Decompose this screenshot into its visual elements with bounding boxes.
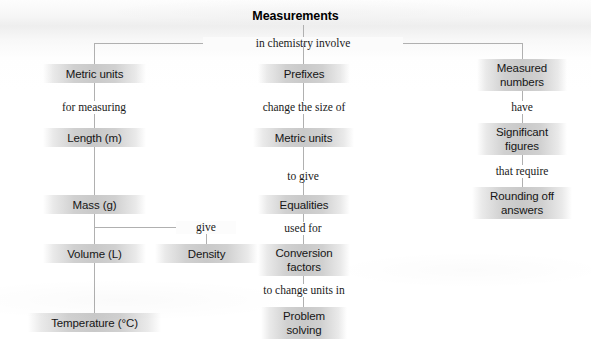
- connector-equalities-to-used-for: [303, 214, 304, 222]
- node-measured-numbers: Measured numbers: [477, 59, 567, 91]
- connector-metric-units-to-to-give: [303, 147, 304, 170]
- node-conversion-factors: Conversion factors: [258, 244, 350, 276]
- node-problem-solving: Problem solving: [261, 307, 347, 339]
- node-conversion-factors-line1: Conversion: [275, 246, 332, 260]
- node-metric-units-center: Metric units: [253, 128, 354, 147]
- connector-prefixes-to-change-size: [303, 83, 304, 101]
- connector-used-for-to-conversion-factors: [303, 235, 304, 244]
- connector-label-to-change-units-in: to change units in: [240, 284, 368, 297]
- node-rounding-off-answers-line2: answers: [501, 203, 543, 217]
- connector-label-to-give: to give: [263, 170, 343, 183]
- node-mass: Mass (g): [43, 195, 146, 214]
- connector-length-to-mass: [94, 147, 95, 195]
- node-rounding-off-answers: Rounding off answers: [472, 187, 572, 219]
- connector-metric-units-to-for-measuring: [94, 83, 95, 101]
- node-measured-numbers-line2: numbers: [500, 75, 544, 89]
- connector-significant-figures-to-that-require: [522, 155, 523, 165]
- node-rounding-off-answers-line1: Rounding off: [490, 189, 554, 203]
- connector-to-give-to-equalities: [303, 183, 304, 195]
- connector-volume-to-temperature: [94, 263, 95, 313]
- node-measured-numbers-line1: Measured: [497, 61, 547, 75]
- diagram-title: Measurements: [0, 9, 591, 23]
- connector-give-to-density: [206, 234, 207, 244]
- connector-label-for-measuring: for measuring: [34, 101, 154, 114]
- connector-label-have: have: [492, 101, 552, 114]
- connector-change-size-to-metric-units: [303, 114, 304, 128]
- connector-change-units-to-problem-solving: [303, 297, 304, 307]
- connector-label-used-for: used for: [268, 222, 338, 235]
- connector-measured-numbers-to-have: [522, 91, 523, 101]
- node-volume: Volume (L): [43, 244, 146, 263]
- concept-map-diagram: Measurements in chemistry involve Metric…: [0, 0, 591, 350]
- node-prefixes: Prefixes: [258, 64, 350, 83]
- node-significant-figures-line2: figures: [505, 139, 539, 153]
- node-metric-units: Metric units: [43, 64, 146, 83]
- node-length: Length (m): [43, 128, 146, 147]
- node-problem-solving-line2: solving: [286, 323, 321, 337]
- connector-mass-to-volume: [94, 214, 95, 244]
- connector-label-give: give: [176, 221, 236, 234]
- node-equalities: Equalities: [258, 195, 350, 214]
- connector-conversion-factors-to-change-units: [303, 276, 304, 284]
- connector-bar-to-metric-units: [94, 43, 95, 64]
- connector-for-measuring-to-length: [94, 114, 95, 128]
- node-significant-figures: Significant figures: [477, 123, 567, 155]
- node-problem-solving-line1: Problem: [283, 309, 325, 323]
- connector-label-that-require: that require: [477, 165, 567, 178]
- connector-label-change-the-size-of: change the size of: [238, 101, 370, 114]
- connector-that-require-to-rounding-off: [522, 178, 523, 187]
- node-density: Density: [155, 244, 258, 263]
- connector-have-to-significant-figures: [522, 114, 523, 123]
- node-conversion-factors-line2: factors: [287, 260, 321, 274]
- connector-bar-to-prefixes: [303, 43, 304, 64]
- node-significant-figures-line1: Significant: [496, 125, 548, 139]
- node-temperature: Temperature (°C): [28, 313, 161, 332]
